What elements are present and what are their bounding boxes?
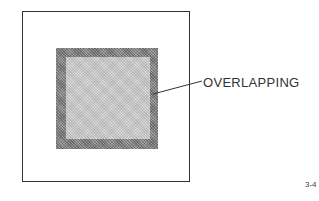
leader-line: [0, 0, 319, 201]
figure-number: 3-4: [305, 180, 317, 189]
overlapping-label: OVERLAPPING: [203, 75, 300, 90]
